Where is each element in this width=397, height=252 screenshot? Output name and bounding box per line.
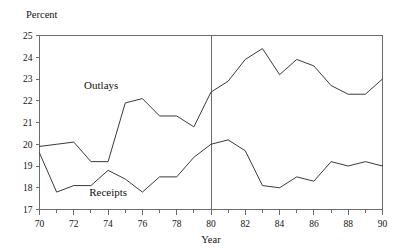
y-tick-label: 22 [23,96,33,106]
y-tick-label: 23 [23,74,33,84]
line-chart: Percent 171819202122232425 7072747678808… [0,0,397,252]
x-axis-tick-labels: 7072747678808284868890 [35,219,388,229]
x-tick-label: 74 [103,219,113,229]
x-axis-title: Year [201,234,221,245]
outlays-label: Outlays [84,79,118,91]
x-tick-label: 84 [275,219,285,229]
chart-container: Percent 171819202122232425 7072747678808… [0,0,397,252]
y-tick-label: 21 [23,118,33,128]
y-tick-label: 17 [23,205,33,215]
x-tick-label: 78 [172,219,182,229]
y-tick-label: 20 [23,140,33,150]
x-tick-label: 90 [378,219,388,229]
y-axis-ticks [36,36,40,210]
y-axis-title: Percent [26,9,58,20]
receipts-label: Receipts [89,186,127,198]
y-tick-label: 18 [23,183,33,193]
x-tick-label: 80 [206,219,216,229]
x-tick-label: 76 [138,219,148,229]
x-tick-label: 70 [35,219,45,229]
y-tick-label: 24 [23,53,33,63]
y-tick-label: 19 [23,161,33,171]
series-annotations: OutlaysReceipts [84,79,127,199]
x-tick-label: 86 [309,219,319,229]
y-axis-tick-labels: 171819202122232425 [23,31,33,215]
x-tick-label: 82 [241,219,251,229]
x-tick-label: 88 [343,219,353,229]
x-tick-label: 72 [69,219,79,229]
y-tick-label: 25 [23,31,33,41]
